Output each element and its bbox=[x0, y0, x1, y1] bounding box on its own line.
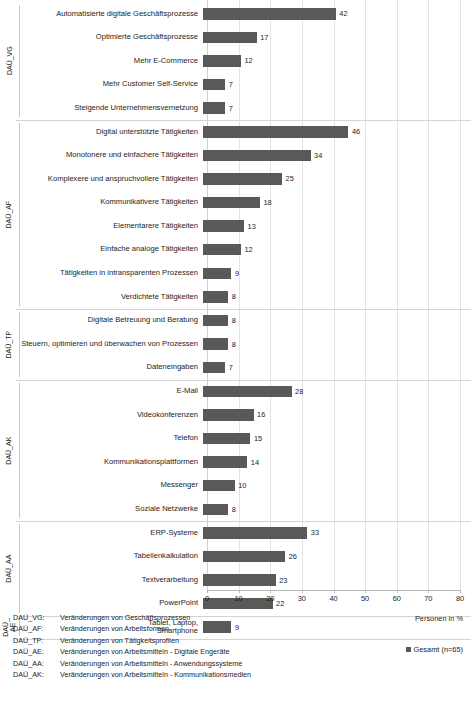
category-label: Komplexere und anspruchvollere Tätigkeit… bbox=[0, 175, 203, 184]
bar bbox=[203, 8, 336, 20]
bar-value-label: 7 bbox=[229, 104, 233, 113]
table-row: Dateneingaben7 bbox=[0, 356, 471, 380]
bar-cell: 13 bbox=[203, 214, 471, 238]
category-label: Kommunikationsplattformen bbox=[0, 458, 203, 467]
table-row: Einfache analoge Tätigkeiten12 bbox=[0, 238, 471, 262]
abbreviation-row: DAÜ_TP:Veränderungen von Tätigkeitsprofi… bbox=[13, 635, 251, 646]
bar-cell: 8 bbox=[203, 309, 471, 333]
group-separator bbox=[16, 120, 471, 121]
table-row: Komplexere und anspruchvollere Tätigkeit… bbox=[0, 167, 471, 191]
table-row: Optimierte Geschäftsprozesse17 bbox=[0, 26, 471, 50]
category-label: Digital unterstützte Tätigkeiten bbox=[0, 128, 203, 137]
abbreviation-code: DAÜ_AK: bbox=[13, 669, 60, 680]
bar bbox=[203, 55, 241, 67]
category-label: Mehr Customer Self-Service bbox=[0, 80, 203, 89]
bar-cell: 14 bbox=[203, 450, 471, 474]
bar bbox=[203, 433, 250, 445]
category-label: Videokonferenzen bbox=[0, 411, 203, 420]
x-axis-tick bbox=[207, 590, 208, 593]
bar bbox=[203, 480, 235, 492]
group-separator bbox=[16, 380, 471, 381]
table-row: Messenger10 bbox=[0, 474, 471, 498]
abbreviation-row: DAÜ_AK:Veränderungen von Arbeitsmitteln … bbox=[13, 669, 251, 680]
x-axis-tick bbox=[397, 590, 398, 593]
bar-value-label: 14 bbox=[251, 458, 259, 467]
abbreviation-description: Veränderungen von Arbeitsmitteln - Kommu… bbox=[60, 669, 251, 680]
category-label: PowerPoint bbox=[0, 599, 203, 608]
x-axis-tick-label: 10 bbox=[235, 594, 243, 603]
bar bbox=[203, 32, 257, 44]
bar-cell: 7 bbox=[203, 96, 471, 120]
category-label: Steuern, optimieren und überwachen von P… bbox=[0, 340, 203, 349]
abbreviation-key: DAÜ_VG:Veränderungen von Geschäftsprozes… bbox=[13, 612, 251, 680]
bar-cell: 15 bbox=[203, 427, 471, 451]
category-label: ERP-Systeme bbox=[0, 529, 203, 538]
table-row: Soziale Netzwerke8 bbox=[0, 497, 471, 521]
table-row: Elementarere Tätigkeiten13 bbox=[0, 214, 471, 238]
table-row: E-Mail28 bbox=[0, 380, 471, 404]
bar-value-label: 7 bbox=[229, 363, 233, 372]
x-axis-tick-label: 0 bbox=[205, 594, 209, 603]
bar-cell: 34 bbox=[203, 144, 471, 168]
bar-value-label: 8 bbox=[232, 316, 236, 325]
table-row: Tabellenkalkulation26 bbox=[0, 545, 471, 569]
bar-cell: 7 bbox=[203, 356, 471, 380]
bar-value-label: 8 bbox=[232, 505, 236, 514]
group-label-da_tp: DAÜ_TP bbox=[0, 309, 18, 380]
bar-cell: 10 bbox=[203, 474, 471, 498]
x-axis-tick bbox=[460, 590, 461, 593]
category-label: E-Mail bbox=[0, 387, 203, 396]
bar-cell: 8 bbox=[203, 332, 471, 356]
bar-cell: 42 bbox=[203, 2, 471, 26]
bar-cell: 26 bbox=[203, 545, 471, 569]
abbreviation-code: DAÜ_TP: bbox=[13, 635, 60, 646]
bar-value-label: 12 bbox=[244, 245, 252, 254]
x-axis-title: Personen in % bbox=[415, 614, 463, 623]
bar-value-label: 18 bbox=[263, 198, 271, 207]
group-axis-line bbox=[19, 312, 20, 377]
x-axis-tick-label: 30 bbox=[298, 594, 306, 603]
bar bbox=[203, 244, 241, 256]
group-axis-line bbox=[19, 5, 20, 117]
bar bbox=[203, 574, 276, 586]
bar bbox=[203, 126, 348, 138]
bar bbox=[203, 102, 225, 114]
bar bbox=[203, 362, 225, 374]
group-label-da_af: DAÜ_AF bbox=[0, 120, 18, 309]
abbreviation-row: DAÜ_AE:Veränderungen von Arbeitsmitteln … bbox=[13, 646, 251, 657]
bar-cell: 46 bbox=[203, 120, 471, 144]
category-label: Tabellenkalkulation bbox=[0, 552, 203, 561]
x-axis-tick bbox=[270, 590, 271, 593]
abbreviation-description: Veränderungen von Tätigkeitsprofilen bbox=[60, 635, 251, 646]
bar-cell: 12 bbox=[203, 49, 471, 73]
bar-value-label: 10 bbox=[238, 481, 246, 490]
bar-cell: 33 bbox=[203, 521, 471, 545]
x-axis-tick bbox=[428, 590, 429, 593]
group-separator bbox=[16, 309, 471, 310]
group-label-da_aa: DAÜ_AA bbox=[0, 521, 18, 615]
abbreviation-code: DAÜ_AA: bbox=[13, 658, 60, 669]
group-axis-line bbox=[19, 524, 20, 612]
table-row: Steigende Unternehmensvernetzung7 bbox=[0, 96, 471, 120]
chart-legend: Gesamt (n=65) bbox=[406, 645, 464, 654]
bar-cell: 8 bbox=[203, 497, 471, 521]
x-axis-tick-label: 60 bbox=[393, 594, 401, 603]
x-axis-tick bbox=[334, 590, 335, 593]
bar bbox=[203, 386, 292, 398]
x-axis-tick-label: 40 bbox=[329, 594, 337, 603]
category-label: Monotonere und einfachere Tätigkeiten bbox=[0, 151, 203, 160]
table-row: Digitale Betreuung und Beratung8 bbox=[0, 309, 471, 333]
x-axis-tick-label: 70 bbox=[424, 594, 432, 603]
bar-rows-container: Automatisierte digitale Geschäftsprozess… bbox=[0, 0, 471, 590]
abbreviation-code: DAÜ_AE: bbox=[13, 646, 60, 657]
bar-cell: 8 bbox=[203, 285, 471, 309]
category-label: Digitale Betreuung und Beratung bbox=[0, 316, 203, 325]
abbreviation-row: DAÜ_AA:Veränderungen von Arbeitsmitteln … bbox=[13, 658, 251, 669]
table-row: Tätigkeiten in intransparenten Prozessen… bbox=[0, 262, 471, 286]
category-label: Soziale Netzwerke bbox=[0, 505, 203, 514]
bar-cell: 7 bbox=[203, 73, 471, 97]
bar-value-label: 46 bbox=[352, 127, 360, 136]
bar-cell: 23 bbox=[203, 568, 471, 592]
plot-area: Automatisierte digitale Geschäftsprozess… bbox=[0, 0, 471, 590]
x-axis-tick bbox=[239, 590, 240, 593]
